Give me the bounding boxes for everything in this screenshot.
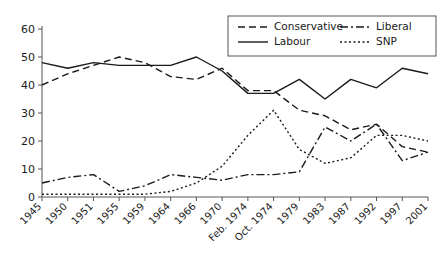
x-tick-label: 1945 xyxy=(18,201,44,227)
x-tick-label: 1950 xyxy=(43,201,69,227)
legend-label-snp: SNP xyxy=(376,35,397,47)
x-tick-label: 1966 xyxy=(172,201,198,227)
y-tick-label: 60 xyxy=(21,23,35,36)
y-tick-label: 30 xyxy=(21,107,35,120)
x-tick-label: 1983 xyxy=(301,201,327,227)
x-tick-label: 1992 xyxy=(352,201,378,227)
series-line-labour xyxy=(42,57,428,99)
chart-canvas: 0102030405060 19451950195119551959196419… xyxy=(0,0,444,255)
legend-label-labour: Labour xyxy=(274,35,311,47)
x-tick-label: 1997 xyxy=(378,201,404,227)
y-tick-label: 20 xyxy=(21,135,35,148)
y-tick-label: 10 xyxy=(21,163,35,176)
x-tick-label: 1959 xyxy=(121,201,147,227)
y-tick-label: 50 xyxy=(21,51,35,64)
x-tick-label: 1955 xyxy=(95,201,121,227)
chart-legend: ConservativeLiberalLabourSNP xyxy=(228,16,436,56)
series-line-conservative xyxy=(42,57,428,152)
y-tick-label: 40 xyxy=(21,79,35,92)
series-lines xyxy=(42,57,428,194)
series-line-liberal xyxy=(42,124,428,191)
legend-label-conservative: Conservative xyxy=(274,20,343,32)
x-tick-label: 1951 xyxy=(69,201,95,227)
x-axis: 19451950195119551959196419661970Feb. 197… xyxy=(18,197,430,243)
x-tick-label: 1964 xyxy=(146,201,172,227)
line-chart: 0102030405060 19451950195119551959196419… xyxy=(0,0,444,255)
x-tick-label: 1979 xyxy=(275,201,301,227)
x-tick-label: 2001 xyxy=(404,201,430,227)
legend-label-liberal: Liberal xyxy=(376,20,412,32)
y-axis: 0102030405060 xyxy=(21,23,42,204)
series-line-snp xyxy=(42,110,428,194)
x-tick-label: 1987 xyxy=(326,201,352,227)
